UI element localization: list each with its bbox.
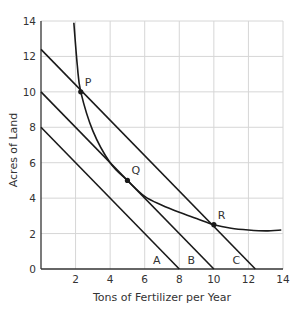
y-tick-label: 4	[29, 192, 36, 204]
point-p-marker	[78, 89, 83, 94]
x-tick-label: 12	[242, 273, 255, 285]
y-tick-label: 0	[29, 263, 36, 275]
point-r-marker	[211, 222, 216, 227]
x-tick-label: 6	[141, 273, 148, 285]
y-tick-label: 6	[29, 157, 36, 169]
x-tick-label: 14	[276, 273, 290, 285]
line-b-label: B	[188, 254, 196, 267]
x-tick-label: 2	[72, 273, 79, 285]
point-q-marker	[125, 178, 130, 183]
point-q-label: Q	[131, 164, 140, 177]
x-axis-title: Tons of Fertilizer per Year	[92, 291, 231, 304]
point-p-label: P	[85, 76, 92, 89]
x-tick-label: 8	[176, 273, 183, 285]
line-a-label: A	[153, 254, 161, 267]
y-tick-label: 12	[23, 50, 36, 62]
y-tick-label: 8	[29, 121, 36, 133]
point-r-label: R	[218, 209, 226, 222]
series-lines	[41, 23, 281, 269]
chart: PQRABC 246810121402468101214 Tons of Fer…	[0, 0, 303, 312]
y-tick-label: 14	[23, 15, 37, 27]
x-tick-label: 10	[207, 273, 220, 285]
y-axis-title: Acres of Land	[7, 113, 20, 188]
y-tick-label: 10	[23, 86, 36, 98]
y-tick-label: 2	[29, 228, 36, 240]
line-c-label: C	[232, 254, 240, 267]
x-tick-label: 4	[107, 273, 114, 285]
